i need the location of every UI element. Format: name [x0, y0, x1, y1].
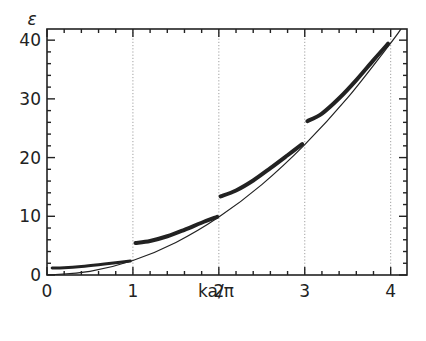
vertical-grid-lines	[133, 29, 391, 275]
plot-frame	[47, 29, 407, 275]
band-3-curve	[221, 144, 303, 196]
x-tick-label: 4	[385, 281, 396, 301]
plot-curves	[47, 29, 401, 275]
y-tick-label: 30	[19, 89, 41, 109]
y-axis-label: ε	[27, 9, 36, 29]
y-tick-label: 20	[19, 148, 41, 168]
y-tick-label: 40	[19, 30, 41, 50]
band-structure-chart: 01234010203040 ka/π ε	[0, 0, 426, 341]
x-tick-label: 0	[42, 281, 53, 301]
free-electron-parabola-curve	[47, 29, 401, 275]
tick-labels: 01234010203040	[19, 30, 396, 301]
axis-ticks	[47, 29, 407, 275]
band-4-curve	[307, 44, 388, 121]
y-tick-label: 0	[30, 265, 41, 285]
y-tick-label: 10	[19, 206, 41, 226]
x-tick-label: 1	[128, 281, 139, 301]
x-tick-label: 3	[299, 281, 310, 301]
x-axis-label: ka/π	[198, 281, 234, 301]
band-2-curve	[135, 217, 217, 243]
